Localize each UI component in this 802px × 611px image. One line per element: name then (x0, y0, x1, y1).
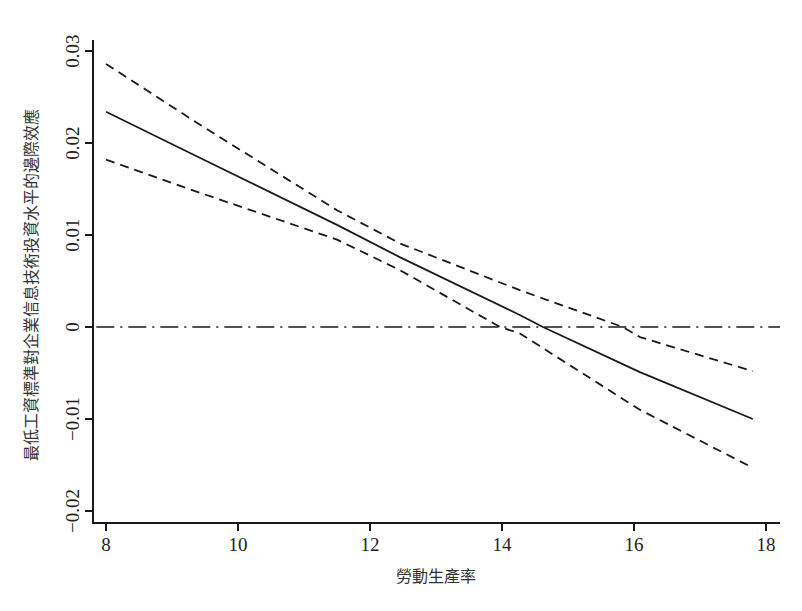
axes (85, 40, 780, 531)
y-tick-label: 0.02 (62, 126, 83, 159)
y-tick-label: 0 (62, 322, 83, 332)
series-upper-95-ci (106, 64, 753, 371)
series-lower-95-ci (106, 160, 753, 468)
x-tick-label: 12 (361, 534, 380, 555)
x-tick-label: 8 (101, 534, 111, 555)
y-axis-title: 最低工資標準對企業信息技術投資水平的邊際效應 (22, 109, 41, 461)
series-group (96, 64, 780, 468)
y-tick-label: 0.01 (62, 218, 83, 251)
x-axis-title: 勞動生產率 (396, 567, 476, 586)
x-tick-label: 18 (757, 534, 776, 555)
y-tick-label: −0.01 (62, 397, 83, 441)
x-tick-label: 10 (229, 534, 248, 555)
series-marginal-effect (106, 112, 753, 419)
y-tick-label: 0.03 (62, 34, 83, 67)
x-tick-label: 16 (625, 534, 644, 555)
marginal-effect-chart: 勞動生產率 最低工資標準對企業信息技術投資水平的邊際效應 −0.02−0.010… (0, 0, 802, 611)
x-tick-label: 14 (493, 534, 513, 555)
labels: 勞動生產率 最低工資標準對企業信息技術投資水平的邊際效應 −0.02−0.010… (22, 34, 776, 586)
y-tick-label: −0.02 (62, 489, 83, 533)
